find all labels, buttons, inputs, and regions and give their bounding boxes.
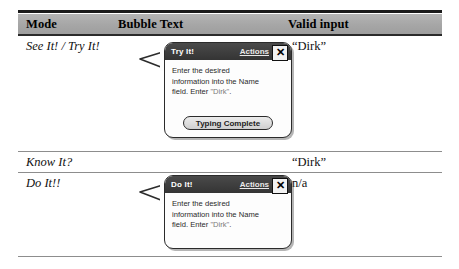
column-header-mode: Mode <box>26 16 57 32</box>
table-row-divider-2 <box>18 172 442 173</box>
table-row-valid-1: “Dirk” <box>292 155 326 170</box>
table-row-mode-1: Know It? <box>26 155 72 170</box>
bubble-actions-link[interactable]: Actions <box>240 180 269 189</box>
table-row-divider-1 <box>18 151 442 152</box>
column-header-valid-input: Valid input <box>288 16 349 32</box>
table-header-bottom-rule <box>18 34 442 36</box>
bubble-text-line-1: Enter the desired <box>172 199 230 208</box>
bubble-window-try-it: Try It! Actions ✕ Enter the desired info… <box>164 42 292 138</box>
bubble-title-label: Try It! <box>171 47 194 56</box>
typing-complete-button[interactable]: Typing Complete <box>183 116 273 130</box>
close-icon[interactable]: ✕ <box>272 178 288 194</box>
bubble-titlebar-try-it: Try It! Actions ✕ <box>165 43 291 60</box>
bubble-text-quoted-value: "Dirk" <box>210 220 229 229</box>
close-icon[interactable]: ✕ <box>272 45 288 61</box>
table-row-mode-0: See It! / Try It! <box>26 39 100 54</box>
bubble-body-try-it: Enter the desired information into the N… <box>165 60 291 98</box>
bubble-text-line-2: information into the Name <box>172 77 259 86</box>
column-header-bubble-text: Bubble Text <box>118 16 183 32</box>
bubble-titlebar-do-it: Do It! Actions ✕ <box>165 176 291 193</box>
bubble-text-line-1: Enter the desired <box>172 66 230 75</box>
bubble-text-line-3-post: . <box>229 220 231 229</box>
bubble-instruction-text: Enter the desired information into the N… <box>172 66 284 98</box>
table-row-valid-2: n/a <box>292 176 307 191</box>
bubble-actions-link[interactable]: Actions <box>240 47 269 56</box>
bubble-window-do-it: Do It! Actions ✕ Enter the desired infor… <box>164 175 292 249</box>
table-bottom-rule <box>18 256 442 257</box>
bubble-text-line-3-pre: field. Enter <box>172 220 210 229</box>
bubble-title-label: Do It! <box>171 180 193 189</box>
bubble-text-quoted-value: "Dirk" <box>210 87 229 96</box>
bubble-text-line-3-post: . <box>229 87 231 96</box>
bubble-tail-pointer <box>134 50 168 72</box>
bubble-button-row: Typing Complete <box>165 116 291 130</box>
document-page: Mode Bubble Text Valid input See It! / T… <box>0 0 459 269</box>
table-top-rule <box>18 10 442 13</box>
table-row-valid-0: “Dirk” <box>292 39 326 54</box>
bubble-instruction-text: Enter the desired information into the N… <box>172 199 284 231</box>
table-row-mode-2: Do It!! <box>26 176 60 191</box>
bubble-text-line-3-pre: field. Enter <box>172 87 210 96</box>
bubble-body-do-it: Enter the desired information into the N… <box>165 193 291 231</box>
bubble-tail-pointer <box>134 183 168 205</box>
table-header-band <box>18 14 442 34</box>
bubble-text-line-2: information into the Name <box>172 210 259 219</box>
